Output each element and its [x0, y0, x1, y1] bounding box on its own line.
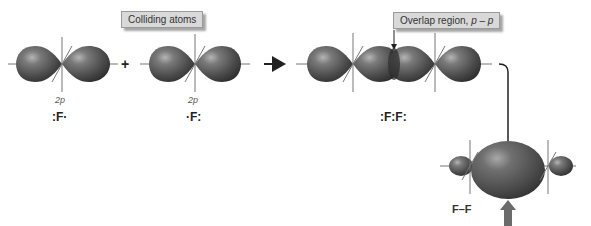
fluorine-atom-2-2p-orbital — [140, 34, 250, 92]
atom-1-lewis-structure: :F· — [52, 110, 67, 124]
overlap-region-math: p – p — [471, 15, 493, 26]
diagram-canvas — [0, 0, 591, 226]
overlap-region-text: Overlap region, — [400, 15, 471, 26]
overlapping-orbitals — [296, 30, 492, 92]
colliding-atoms-text: Colliding atoms — [128, 14, 196, 25]
atom-2-lewis-structure: ·F: — [186, 110, 201, 124]
atom-1-orbital-label: 2p — [55, 95, 65, 105]
fluorine-atom-1-2p-orbital — [8, 37, 118, 92]
overlap-region-label: Overlap region, p – p — [393, 12, 500, 29]
product-label: F–F — [452, 203, 472, 215]
molecule-lewis-structure: :F:F: — [380, 110, 407, 124]
bent-arrow — [499, 64, 508, 150]
gray-up-arrow — [500, 200, 516, 226]
sigma-bond-molecule — [440, 140, 576, 199]
atom-2-orbital-label: 2p — [188, 95, 198, 105]
overlap-region — [388, 48, 400, 80]
colliding-atoms-label: Colliding atoms — [121, 11, 203, 28]
plus-sign: + — [121, 56, 129, 72]
